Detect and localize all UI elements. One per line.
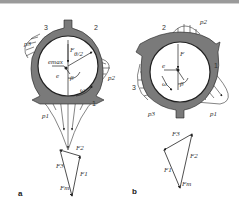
angle-beta-label-a: β — [69, 74, 74, 82]
panel-label-b: b — [132, 187, 137, 196]
e-label-a: e — [56, 72, 59, 80]
emax-label-a: emax — [48, 58, 64, 66]
lobe-number-2-a: 2 — [94, 24, 98, 31]
pressure-label-p2-b: p2 — [199, 18, 208, 26]
pressure-label-p2-a: p2 — [107, 74, 116, 82]
polygon-f1-a: F1 — [79, 170, 88, 178]
polygon-fm-b: Fm — [181, 180, 191, 188]
pressure-label-p3-a: p3 — [23, 40, 32, 48]
angle-theta-label-a: θ/2 — [74, 50, 83, 58]
lobe-number-3-b: 3 — [132, 84, 136, 91]
omega-label-a: ω — [80, 86, 85, 94]
lobe-number-3-a: 3 — [44, 24, 48, 31]
panel-label-a: a — [18, 189, 23, 198]
panel-b: 2 1 3 p2 p3 p1 F β e ω F3 F2 F1 Fm b — [132, 18, 228, 196]
pressure-label-p3-b: p3 — [147, 110, 156, 118]
lobe-number-2-b: 2 — [162, 24, 166, 31]
e-label-b: e — [162, 62, 165, 70]
polygon-f3-b: F3 — [171, 130, 180, 138]
force-label-b: F — [179, 50, 185, 58]
pressure-zone-p1-a — [40, 98, 96, 150]
polygon-f1-b: F1 — [163, 166, 172, 174]
omega-label-b: ω — [162, 80, 167, 88]
angle-beta-label-b: β — [179, 80, 184, 88]
polygon-f3-a: F3 — [55, 162, 64, 170]
panel-a: 3 2 1 p3 p2 p1 F θ/2 β emax e ω F2 F3 F1… — [18, 20, 116, 198]
pressure-label-p1-a: p1 — [41, 112, 49, 120]
pressure-label-p1-b: p1 — [209, 110, 217, 118]
polygon-f2-a: F2 — [75, 144, 84, 152]
bearing-diagram: 3 2 1 p3 p2 p1 F θ/2 β emax e ω F2 F3 F1… — [0, 0, 239, 203]
polygon-f2-b: F2 — [189, 152, 198, 160]
lobe-number-1-b: 1 — [214, 62, 218, 69]
polygon-fm-a: Fm — [59, 184, 69, 192]
lobe-number-1-a: 1 — [92, 100, 96, 107]
